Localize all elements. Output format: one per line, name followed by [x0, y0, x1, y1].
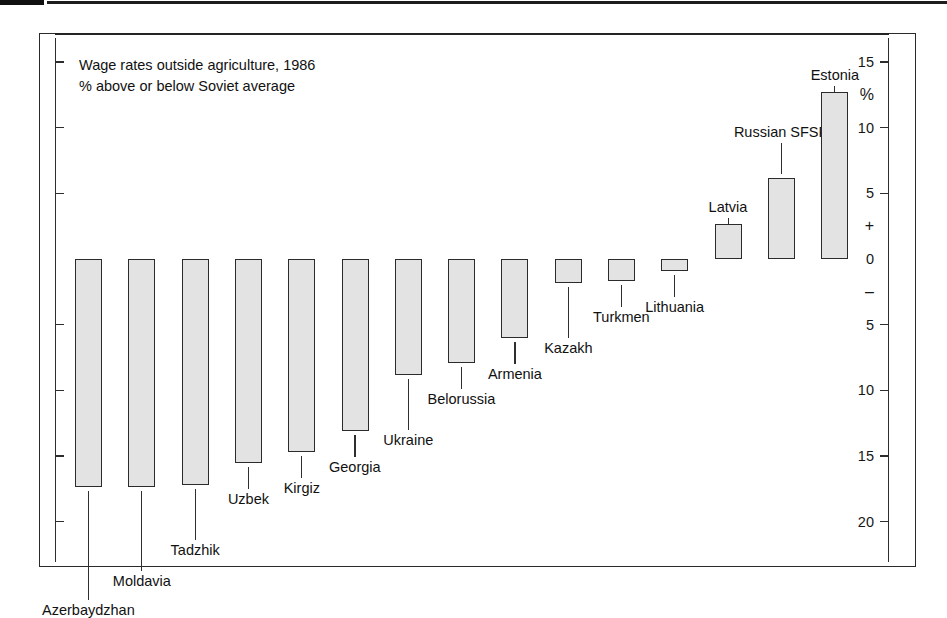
bar-belorussia[interactable]	[448, 259, 475, 363]
bar-estonia[interactable]	[821, 92, 848, 259]
bar-leader-line	[408, 379, 409, 430]
zero-baseline	[55, 33, 889, 35]
bar-label-kazakh: Kazakh	[544, 341, 592, 356]
bar-turkmen[interactable]	[608, 259, 635, 281]
y-axis-tick	[55, 324, 64, 326]
bar-armenia[interactable]	[501, 259, 528, 338]
bar-ukraine[interactable]	[395, 259, 422, 375]
bar-label-uzbek: Uzbek	[228, 492, 269, 507]
y-axis-tick	[55, 390, 64, 392]
bar-leader-line	[621, 285, 622, 307]
bar-lithuania[interactable]	[661, 259, 688, 271]
y-axis-tick-label: 15	[858, 55, 874, 70]
bar-leader-line	[195, 489, 196, 540]
bar-label-tadzhik: Tadzhik	[171, 543, 220, 558]
bar-label-azerbaydzhan: Azerbaydzhan	[42, 603, 135, 618]
y-axis-tick-label: 10	[858, 121, 874, 136]
y-axis-minus-symbol: –	[865, 284, 874, 300]
bar-georgia[interactable]	[342, 259, 369, 431]
y-axis-tick-label: 15	[858, 449, 874, 464]
bar-leader-line	[248, 467, 249, 489]
y-axis-tick	[880, 193, 889, 195]
y-axis-tick	[55, 61, 64, 63]
bar-leader-line	[728, 218, 729, 224]
y-axis-tick	[55, 455, 64, 457]
bar-label-turkmen: Turkmen	[593, 310, 650, 325]
bar-label-ukraine: Ukraine	[383, 433, 433, 448]
bar-label-belorussia: Belorussia	[428, 392, 496, 407]
bar-latvia[interactable]	[715, 224, 742, 259]
bar-label-latvia: Latvia	[709, 200, 748, 215]
y-axis-tick-label: 10	[858, 383, 874, 398]
bar-leader-line	[301, 456, 302, 478]
y-axis-tick	[880, 455, 889, 457]
bar-russian-sfsr[interactable]	[768, 178, 795, 259]
bar-leader-line	[834, 86, 835, 92]
bar-label-kirgiz: Kirgiz	[284, 481, 320, 496]
y-axis-tick	[880, 521, 889, 523]
y-axis-plus-symbol: +	[865, 218, 874, 234]
bar-kirgiz[interactable]	[288, 259, 315, 452]
bar-moldavia[interactable]	[128, 259, 155, 487]
chart-caption: Wage rates outside agriculture, 1986 % a…	[79, 55, 315, 97]
y-axis-tick	[880, 324, 889, 326]
bar-label-lithuania: Lithuania	[645, 300, 704, 315]
bar-tadzhik[interactable]	[182, 259, 209, 485]
y-axis-tick	[55, 193, 64, 195]
bar-label-georgia: Georgia	[329, 460, 381, 475]
y-axis-tick	[880, 390, 889, 392]
chart-plot-area: 1510505101520%+– AzerbaydzhanMoldaviaTad…	[39, 33, 916, 567]
y-axis-tick-label: 5	[866, 186, 874, 201]
bar-uzbek[interactable]	[235, 259, 262, 463]
header-rule-thick	[0, 0, 44, 5]
bar-leader-line	[88, 491, 89, 600]
bar-leader-line	[354, 435, 355, 457]
y-axis-right	[888, 38, 889, 562]
bar-leader-line	[674, 275, 675, 297]
y-axis-tick	[55, 127, 64, 129]
bar-label-estonia: Estonia	[811, 68, 859, 83]
bar-leader-line	[141, 491, 142, 571]
y-axis-tick-label: 20	[858, 515, 874, 530]
bar-label-moldavia: Moldavia	[113, 574, 171, 589]
bar-kazakh[interactable]	[555, 259, 582, 283]
y-axis-tick	[55, 521, 64, 523]
y-axis-tick-label: 0	[866, 252, 874, 267]
y-axis-tick-label: 5	[866, 318, 874, 333]
y-axis-tick	[880, 61, 889, 63]
y-axis-left	[55, 38, 56, 562]
bar-leader-line	[514, 342, 515, 364]
bar-leader-line	[781, 143, 782, 174]
bar-leader-line	[568, 287, 569, 338]
bar-leader-line	[461, 367, 462, 389]
header-rule-thin	[47, 1, 947, 4]
bar-label-armenia: Armenia	[488, 367, 542, 382]
y-axis-tick	[880, 127, 889, 129]
bar-azerbaydzhan[interactable]	[75, 259, 102, 487]
y-axis-percent-symbol: %	[860, 87, 874, 103]
bar-label-russian-sfsr: Russian SFSR	[734, 125, 829, 140]
